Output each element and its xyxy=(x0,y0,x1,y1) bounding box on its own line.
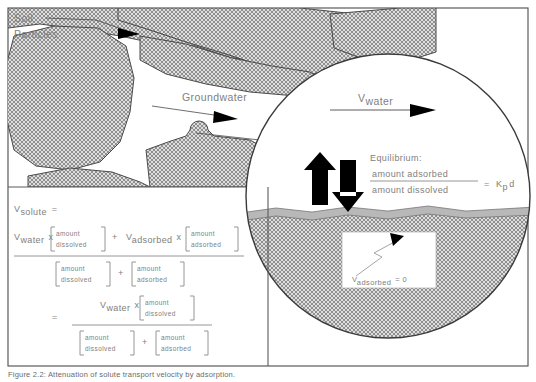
equation-row1-b1-l2: dissolved xyxy=(56,241,87,248)
equilibrium-title: Equilibrium: xyxy=(370,153,422,163)
figure-container: Soil Particles Groundwater Vad xyxy=(0,0,536,382)
soil-particles-label-line1: Soil xyxy=(14,12,33,24)
equation-row2d-b2-l2: adsorbed xyxy=(161,345,191,352)
equation-row1-b2-l1: amount xyxy=(191,230,215,237)
equation-row1d-b1-l2: dissolved xyxy=(61,276,92,283)
equilibrium-denominator: amount dissolved xyxy=(372,185,448,195)
equation-row2-b-l1: amount xyxy=(145,299,169,306)
equation-row1d-b2-l2: adsorbed xyxy=(137,276,167,283)
figure-caption: Figure 2.2: Attenuation of solute transp… xyxy=(8,370,235,379)
equation-row1-b1-l1: amount xyxy=(56,230,80,237)
equation-row2d-plus: + xyxy=(142,337,148,347)
equation-row2-equals: = xyxy=(52,312,58,322)
equation-row1d-b2-l1: amount xyxy=(137,265,161,272)
groundwater-label: Groundwater xyxy=(182,91,247,103)
equation-row2-b-l2: dissolved xyxy=(145,310,176,317)
equation-row2d-b1-l1: amount xyxy=(85,334,109,341)
equation-row1d-plus: + xyxy=(118,268,124,278)
equation-row2d-b2-l1: amount xyxy=(161,334,185,341)
equilibrium-equals: = xyxy=(484,179,490,189)
equation-row1d-b1-l1: amount xyxy=(61,265,85,272)
equilibrium-numerator: amount adsorbed xyxy=(372,169,448,179)
equation-row1-b2-l2: adsorbed xyxy=(191,241,221,248)
soil-particles-label-line2: Particles xyxy=(14,28,58,40)
equation-row1-plus: + xyxy=(112,232,118,242)
diagram-canvas: Soil Particles Groundwater Vad xyxy=(0,0,536,382)
equation-row2d-b1-l2: dissolved xyxy=(85,345,116,352)
